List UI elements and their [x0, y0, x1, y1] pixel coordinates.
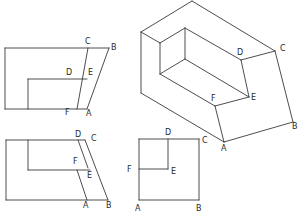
- vertex-label-d: D: [75, 130, 81, 139]
- vertex-label-a: A: [83, 201, 89, 210]
- edge-line: [141, 1, 192, 32]
- edge-line: [160, 74, 215, 106]
- edge-line: [275, 51, 293, 122]
- side-view: DCFEAB: [127, 128, 208, 213]
- edge-line: [160, 59, 185, 74]
- vertex-label-e: E: [88, 68, 93, 77]
- edge-line: [241, 60, 249, 97]
- vertex-label-c: C: [85, 37, 91, 46]
- vertex-label-e: E: [251, 93, 256, 102]
- edge-line: [215, 97, 249, 106]
- vertex-label-f: F: [73, 157, 78, 166]
- top-view: DCFEAB: [6, 130, 112, 210]
- vertex-label-b: B: [196, 204, 202, 213]
- edge-line: [185, 59, 249, 97]
- edge-line: [141, 32, 160, 43]
- edge-line: [241, 51, 275, 60]
- vertex-label-e: E: [87, 171, 92, 180]
- vertex-label-b: B: [292, 122, 298, 131]
- edge-line: [185, 28, 241, 60]
- technical-drawing: CBDEFA DCFEAB DCFEAB DCFEAB: [0, 0, 298, 216]
- vertex-label-f: F: [65, 108, 70, 117]
- edge-line: [77, 48, 88, 109]
- vertex-label-d: D: [165, 128, 171, 137]
- vertex-label-a: A: [135, 204, 141, 213]
- vertex-label-f: F: [211, 94, 216, 103]
- vertex-label-c: C: [202, 136, 208, 145]
- vertex-label-a: A: [86, 109, 92, 118]
- vertex-label-c: C: [91, 134, 97, 143]
- vertex-label-b: B: [111, 43, 117, 52]
- edge-line: [87, 48, 109, 109]
- edge-line: [192, 1, 275, 51]
- front-view: CBDEFA: [5, 37, 117, 118]
- edge-line: [224, 122, 293, 142]
- edge-line: [215, 106, 224, 142]
- edge-line: [77, 170, 87, 200]
- vertex-label-d: D: [66, 68, 72, 77]
- vertex-label-a: A: [221, 144, 227, 153]
- vertex-label-b: B: [106, 201, 112, 210]
- vertex-label-e: E: [171, 167, 176, 176]
- vertex-label-f: F: [127, 165, 132, 174]
- edge-line: [160, 28, 185, 43]
- vertex-label-c: C: [280, 44, 286, 53]
- vertex-label-d: D: [237, 48, 243, 57]
